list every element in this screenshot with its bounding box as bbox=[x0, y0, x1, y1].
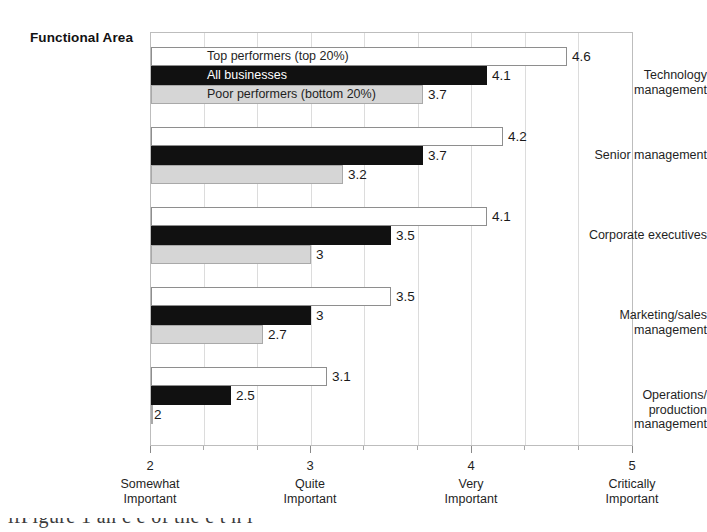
category-label-marketing: Marketing/sales management bbox=[565, 308, 707, 337]
bar-top-senior bbox=[151, 127, 503, 146]
xtick-5-minor bbox=[578, 446, 579, 450]
bottom-caption-text: lfFigure 1 an c e of the e t h l bbox=[8, 518, 253, 528]
bar-all-operations bbox=[151, 386, 231, 405]
value-poor-corporate: 3 bbox=[316, 245, 324, 264]
xtick-5 bbox=[632, 446, 633, 453]
xtick-text-quite-important: Quite Important bbox=[284, 477, 337, 506]
bar-all-technology bbox=[151, 66, 487, 85]
category-label-operations: Operations/ production management bbox=[565, 388, 707, 432]
value-poor-senior: 3.2 bbox=[348, 165, 367, 184]
chart-axis-title: Functional Area bbox=[30, 30, 133, 45]
bottom-caption-clip: lfFigure 1 an c e of the e t h l bbox=[0, 518, 707, 532]
value-top-technology: 4.6 bbox=[572, 47, 591, 66]
value-poor-technology: 3.7 bbox=[428, 85, 447, 104]
legend-label-all-businesses: All businesses bbox=[207, 66, 287, 85]
xtick-text-somewhat-important: Somewhat Important bbox=[120, 477, 179, 506]
value-top-senior: 4.2 bbox=[508, 127, 527, 146]
bar-chart: Functional Area Top performers (top 20%)… bbox=[0, 0, 707, 532]
xtick-text-very-important: Very Important bbox=[445, 477, 498, 506]
value-poor-operations: 2 bbox=[154, 405, 162, 424]
xtick-text-critically-important: Critically Important bbox=[606, 477, 659, 506]
category-label-technology: Technology management bbox=[565, 68, 707, 97]
xtick-3-5 bbox=[363, 446, 364, 450]
xtick-3-minor bbox=[257, 446, 258, 450]
value-poor-marketing: 2.7 bbox=[268, 325, 287, 344]
xtick-number-3: 3 bbox=[306, 458, 313, 473]
bar-poor-operations bbox=[151, 405, 153, 424]
xtick-2-5 bbox=[203, 446, 204, 450]
value-all-marketing: 3 bbox=[316, 306, 324, 325]
xtick-number-5: 5 bbox=[628, 458, 635, 473]
value-all-corporate: 3.5 bbox=[396, 226, 415, 245]
bar-poor-marketing bbox=[151, 325, 263, 344]
bar-poor-corporate bbox=[151, 245, 311, 264]
legend-label-top-performers: Top performers (top 20%) bbox=[207, 47, 349, 66]
xtick-2 bbox=[150, 446, 151, 453]
value-top-corporate: 4.1 bbox=[492, 207, 511, 226]
xtick-number-4: 4 bbox=[467, 458, 474, 473]
xtick-number-2: 2 bbox=[146, 458, 153, 473]
bar-all-marketing bbox=[151, 306, 311, 325]
gridline-5-5 bbox=[525, 33, 526, 445]
bar-top-corporate bbox=[151, 207, 487, 226]
bar-poor-senior bbox=[151, 165, 343, 184]
bar-all-senior bbox=[151, 146, 423, 165]
xtick-4-minor bbox=[417, 446, 418, 450]
value-all-technology: 4.1 bbox=[492, 66, 511, 85]
value-top-marketing: 3.5 bbox=[396, 287, 415, 306]
bar-top-marketing bbox=[151, 287, 391, 306]
gridline-5 bbox=[471, 33, 472, 445]
category-label-senior: Senior management bbox=[565, 148, 707, 163]
xtick-4-5 bbox=[524, 446, 525, 450]
value-top-operations: 3.1 bbox=[332, 367, 351, 386]
legend-label-poor-performers: Poor performers (bottom 20%) bbox=[207, 85, 376, 104]
value-all-senior: 3.7 bbox=[428, 146, 447, 165]
xtick-3 bbox=[310, 446, 311, 453]
xtick-4 bbox=[471, 446, 472, 453]
bar-top-operations bbox=[151, 367, 327, 386]
value-all-operations: 2.5 bbox=[236, 386, 255, 405]
category-label-corporate: Corporate executives bbox=[565, 228, 707, 243]
plot-area: Top performers (top 20%) All businesses … bbox=[150, 32, 633, 446]
bar-all-corporate bbox=[151, 226, 391, 245]
